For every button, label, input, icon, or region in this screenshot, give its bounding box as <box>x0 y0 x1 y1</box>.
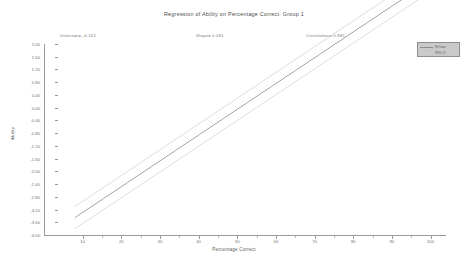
x-tick-label: 80 <box>351 239 356 244</box>
x-tick-label: 60 <box>274 239 279 244</box>
x-tick-mark <box>353 236 354 239</box>
x-tick-minor <box>218 236 219 238</box>
x-tick-mark <box>199 236 200 239</box>
x-tick-mark <box>160 236 161 239</box>
x-tick-minor <box>411 236 412 238</box>
legend-swatch <box>420 47 433 48</box>
x-tick-mark <box>392 236 393 239</box>
legend-label: Fit Line <box>435 45 445 50</box>
x-tick-label: 90 <box>390 239 395 244</box>
x-tick-minor <box>141 236 142 238</box>
legend-item[interactable]: 95% CI <box>420 51 457 56</box>
x-tick-label: 30 <box>158 239 163 244</box>
x-tick-mark <box>121 236 122 239</box>
x-tick-label: 10 <box>80 239 85 244</box>
x-tick-label: 50 <box>235 239 240 244</box>
y-axis-title: Ability <box>10 114 15 154</box>
x-tick-minor <box>295 236 296 238</box>
legend[interactable]: Fit Line95% CI <box>417 42 460 57</box>
regression-chart: Regression of Ability on Percentage Corr… <box>0 0 468 268</box>
x-tick-mark <box>431 236 432 239</box>
x-tick-minor <box>102 236 103 238</box>
x-tick-label: 40 <box>196 239 201 244</box>
legend-label: 95% CI <box>435 51 445 56</box>
x-tick-minor <box>179 236 180 238</box>
x-tick-label: 20 <box>119 239 124 244</box>
x-tick-mark <box>83 236 84 239</box>
legend-item[interactable]: Fit Line <box>420 45 457 50</box>
x-axis-title: Percentage Correct <box>0 247 468 252</box>
x-tick-mark <box>237 236 238 239</box>
x-tick-minor <box>373 236 374 238</box>
legend-swatch <box>420 53 433 54</box>
x-tick-label: 70 <box>312 239 317 244</box>
x-tick-minor <box>334 236 335 238</box>
x-tick-minor <box>257 236 258 238</box>
x-tick-mark <box>276 236 277 239</box>
x-tick-mark <box>315 236 316 239</box>
x-axis-ticks: 102030405060708090100 <box>0 0 468 268</box>
x-tick-label: 100 <box>427 239 434 244</box>
